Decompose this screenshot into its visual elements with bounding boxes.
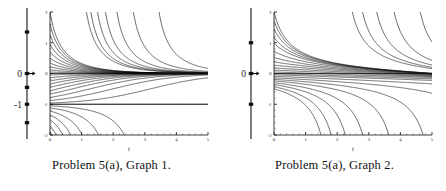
x-tick-label-1: 1 (304, 137, 307, 142)
x-tick-label-1: 1 (80, 137, 83, 142)
phase-line-label-1: -1 (14, 100, 22, 110)
solution-curve-16 (50, 74, 208, 94)
phase-line-arrow-head-0 (32, 72, 35, 76)
solution-curve-15 (274, 78, 432, 93)
figure-row: 0-1012345-2-1012t Problem 5(a), Graph 1.… (0, 0, 446, 191)
figure-caption-2: Problem 5(a), Graph 2. (223, 158, 446, 173)
y-tick-label-1: -1 (44, 102, 49, 107)
y-tick-label-0: -2 (268, 133, 273, 138)
phase-line: 0 (241, 8, 259, 139)
phase-line-node-2 (249, 103, 253, 106)
solution-curve-19 (50, 78, 208, 103)
y-tick-label-0: -2 (44, 133, 49, 138)
x-tick-label-5: 5 (431, 137, 434, 142)
x-axis-label: t (352, 145, 354, 152)
x-tick-label-4: 4 (399, 137, 402, 142)
x-tick-label-0: 0 (273, 137, 276, 142)
x-tick-label-5: 5 (207, 137, 210, 142)
phase-line-node-2 (25, 86, 29, 89)
figure-graph-1: 0-1012345-2-1012t Problem 5(a), Graph 1. (0, 0, 223, 191)
y-tick-label-2: 0 (45, 71, 48, 76)
solution-curve-18 (50, 75, 208, 101)
x-tick-label-3: 3 (144, 137, 147, 142)
x-tick-label-3: 3 (368, 137, 371, 142)
x-tick-label-2: 2 (336, 137, 339, 142)
solution-curves (50, 2, 208, 146)
phase-line-node-4 (25, 121, 29, 124)
solution-curves (274, 2, 432, 146)
y-tick-label-4: 2 (269, 10, 272, 15)
phase-line-node-0 (249, 41, 253, 44)
plot-svg-graph-1: 0-1012345-2-1012t (0, 0, 223, 160)
figure-graph-2: 0012345-2-1012t Problem 5(a), Graph 2. (223, 0, 446, 191)
y-tick-label-1: -1 (268, 102, 273, 107)
figure-caption-1: Problem 5(a), Graph 1. (0, 158, 223, 173)
phase-line-node-0 (25, 30, 29, 33)
x-tick-label-4: 4 (175, 137, 178, 142)
phase-line-label-0: 0 (17, 69, 22, 79)
y-tick-label-3: 1 (45, 41, 48, 46)
x-tick-label-0: 0 (49, 137, 52, 142)
plot-svg-graph-2: 0012345-2-1012t (223, 0, 446, 160)
phase-line: 0-1 (14, 8, 36, 139)
phase-line-arrow-head-0 (256, 72, 259, 76)
plot-graph-1: 0-1012345-2-1012t (0, 0, 223, 160)
y-tick-label-3: 1 (269, 41, 272, 46)
plot-graph-2: 0012345-2-1012t (223, 0, 446, 160)
y-tick-label-2: 0 (269, 71, 272, 76)
x-tick-label-2: 2 (112, 137, 115, 142)
y-tick-label-4: 2 (45, 10, 48, 15)
phase-line-label-0: 0 (241, 69, 246, 79)
x-axis-label: t (128, 145, 130, 152)
phase-line-node-3 (25, 103, 29, 106)
